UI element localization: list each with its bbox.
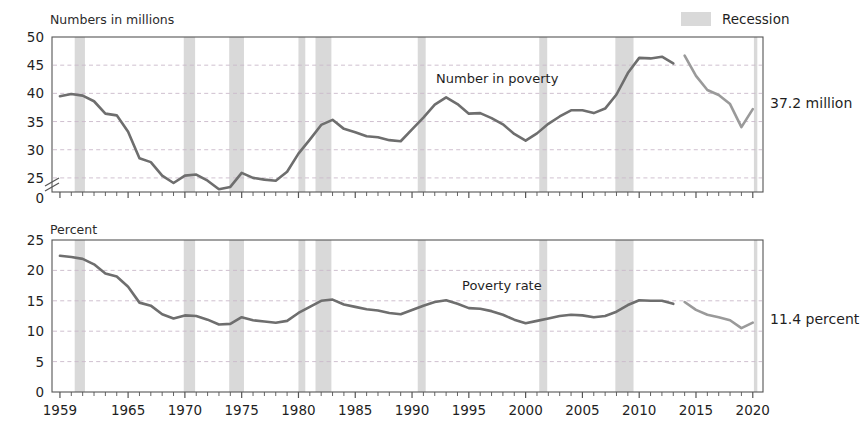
x-tick-label: 1995 [452, 402, 486, 418]
x-tick-label: 1965 [111, 402, 145, 418]
recession-band [316, 37, 332, 192]
recession-band [184, 37, 195, 192]
y-tick-label: 5 [35, 354, 44, 370]
y-tick-label: 10 [27, 323, 44, 339]
y-tick-label: 25 [27, 232, 44, 248]
legend: Recession [681, 11, 789, 27]
recession-legend-swatch [681, 12, 711, 26]
figure-background [0, 0, 867, 428]
poverty-rate-endpoint-label: 11.4 percent [770, 311, 860, 327]
y-tick-label: 0 [35, 384, 44, 400]
recession-band [75, 240, 85, 392]
x-tick-label: 2020 [736, 402, 770, 418]
number-in-poverty-endpoint-label: 37.2 million [770, 95, 852, 111]
y-tick-label: 45 [27, 57, 44, 73]
x-tick-label: 1959 [43, 402, 77, 418]
y-tick-label: 40 [27, 85, 44, 101]
x-tick-label: 1985 [338, 402, 372, 418]
recession-band [615, 37, 633, 192]
x-tick-label: 2010 [622, 402, 656, 418]
x-tick-label: 2015 [679, 402, 713, 418]
recession-band [229, 37, 244, 192]
recession-band [316, 240, 332, 392]
x-tick-label: 1980 [281, 402, 315, 418]
y-tick-label: 15 [27, 293, 44, 309]
poverty-rate-series-label: Poverty rate [462, 278, 542, 293]
y-tick-label: 25 [27, 170, 44, 186]
recession-legend-label: Recession [722, 11, 789, 27]
top-axis-title: Numbers in millions [50, 12, 174, 27]
recession-band [754, 37, 757, 192]
recession-band [539, 240, 547, 392]
recession-band [298, 37, 305, 192]
recession-band [298, 240, 305, 392]
recession-band [539, 37, 547, 192]
recession-band [75, 37, 85, 192]
y-tick-label: 0 [35, 190, 44, 206]
poverty-chart-figure: Recession Numbers in millions 0253035404… [0, 0, 867, 428]
x-tick-label: 1975 [224, 402, 258, 418]
recession-band [615, 240, 633, 392]
number-in-poverty-series-label: Number in poverty [436, 71, 559, 86]
bottom-axis-title: Percent [50, 222, 97, 237]
y-tick-label: 35 [27, 114, 44, 130]
y-tick-label: 50 [27, 29, 44, 45]
recession-band [418, 240, 426, 392]
x-tick-label: 1990 [395, 402, 429, 418]
x-tick-label: 2005 [565, 402, 599, 418]
x-tick-label: 2000 [508, 402, 542, 418]
y-tick-label: 30 [27, 142, 44, 158]
x-tick-label: 1970 [168, 402, 202, 418]
y-tick-label: 20 [27, 262, 44, 278]
recession-band [754, 240, 757, 392]
